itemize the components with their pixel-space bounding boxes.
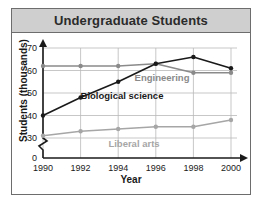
chart-title: Undergraduate Students [54, 13, 208, 28]
svg-text:1992: 1992 [71, 163, 91, 173]
x-axis-ticks: 199019921994199619982000 [33, 163, 241, 173]
x-axis-arrow [240, 154, 248, 162]
svg-text:1990: 1990 [33, 163, 53, 173]
svg-text:Engineering: Engineering [135, 72, 190, 83]
x-axis-title: Year [12, 174, 250, 185]
chart-title-band: Undergraduate Students [12, 9, 250, 33]
line-chart-svg: 03040506070 199019921994199619982000 Eng… [12, 33, 250, 194]
svg-text:1994: 1994 [108, 163, 128, 173]
svg-text:1998: 1998 [183, 163, 203, 173]
svg-text:0: 0 [32, 153, 37, 163]
y-axis-arrow [39, 39, 47, 47]
series-label-group: EngineeringBiological scienceLiberal art… [81, 72, 190, 149]
chart-figure: Undergraduate Students 03040506070 19901… [0, 0, 262, 203]
plot-area: 03040506070 199019921994199619982000 Eng… [12, 33, 250, 194]
y-axis-title: Students (thousands) [18, 36, 29, 146]
svg-text:1996: 1996 [146, 163, 166, 173]
svg-text:2000: 2000 [221, 163, 241, 173]
svg-text:Liberal arts: Liberal arts [108, 138, 159, 149]
svg-text:Biological science: Biological science [81, 90, 164, 101]
